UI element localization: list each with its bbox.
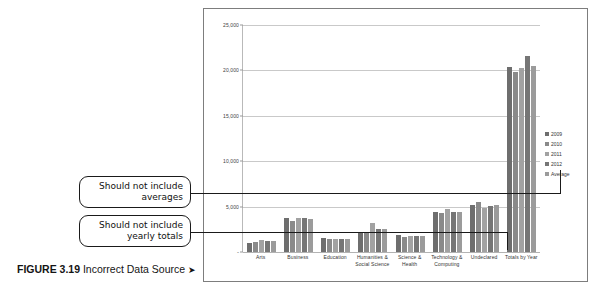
x-axis-label-line: Arts <box>242 254 279 261</box>
legend-label: 2011 <box>551 151 562 157</box>
figure-caption: FIGURE 3.19 Incorrect Data Source ➤ <box>17 262 197 277</box>
callout-averages: Should not include averages <box>79 176 191 208</box>
callout-totals-line2: yearly totals <box>86 231 183 242</box>
y-axis-tick-label: 10,000 <box>223 158 239 164</box>
bar <box>408 236 413 252</box>
x-axis-labels: ArtsBusinessEducationHumanities &Social … <box>242 254 540 268</box>
bar <box>531 66 536 252</box>
x-axis-label-line: Business <box>279 254 316 261</box>
bar-group <box>429 25 466 252</box>
bar <box>265 241 270 252</box>
x-axis-label-line: Social Science <box>354 261 391 268</box>
bar <box>253 242 258 252</box>
y-axis-tick-label: 20,000 <box>223 67 239 73</box>
x-axis-label: Education <box>317 254 354 268</box>
y-axis-tick-label: 15,000 <box>223 113 239 119</box>
chart-frame: 25,00020,00015,00010,0005,000- ArtsBusin… <box>203 8 588 282</box>
callout-yearly-totals: Should not include yearly totals <box>79 215 191 247</box>
bar <box>271 241 276 252</box>
legend-item: Average <box>545 169 587 179</box>
legend-item: 2010 <box>545 139 587 149</box>
legend-swatch-icon <box>545 142 549 146</box>
bar <box>290 221 295 252</box>
x-axis-label-line: Humanities & <box>354 254 391 261</box>
bar-group <box>466 25 503 252</box>
x-axis-label-line: Technology & <box>428 254 465 261</box>
callout-averages-line2: averages <box>86 192 183 203</box>
x-axis-label-line: Health <box>391 261 428 268</box>
legend-swatch-icon <box>545 152 549 156</box>
bar <box>370 223 375 252</box>
arrow-icon: ➤ <box>188 265 196 275</box>
bar <box>507 67 512 252</box>
figure-title: Incorrect Data Source <box>80 263 188 275</box>
leader-line-totals-horizontal <box>191 232 507 233</box>
bar <box>476 202 481 252</box>
bar <box>470 205 475 252</box>
bar <box>396 235 401 252</box>
x-axis-label: Totals by Year <box>503 254 540 268</box>
legend-swatch-icon <box>545 162 549 166</box>
bar <box>345 239 350 252</box>
x-axis-label-line: Science & <box>391 254 428 261</box>
y-axis-tick-label: 25,000 <box>223 22 239 28</box>
legend-swatch-icon <box>545 172 549 176</box>
legend-item: 2011 <box>545 149 587 159</box>
chart-legend: 2009201020112012Average <box>545 129 587 179</box>
callout-averages-line1: Should not include <box>86 181 183 192</box>
x-axis-label: Undeclared <box>466 254 503 268</box>
x-axis-label-line: Education <box>317 254 354 261</box>
bar <box>488 206 493 252</box>
bar <box>445 209 450 252</box>
bar <box>302 218 307 252</box>
bar <box>339 239 344 252</box>
plot-area: 25,00020,00015,00010,0005,000- <box>242 25 540 252</box>
legend-item: 2009 <box>545 129 587 139</box>
legend-label: 2009 <box>551 131 562 137</box>
leader-line-totals-vertical <box>507 232 508 250</box>
leader-line-averages-vertical <box>560 170 561 194</box>
bar-group <box>503 25 540 252</box>
bar <box>296 218 301 253</box>
figure-number: FIGURE 3.19 <box>17 263 80 275</box>
bar-group <box>280 25 317 252</box>
bar-group <box>243 25 280 252</box>
bar <box>364 232 369 252</box>
bar <box>519 68 524 252</box>
bar-group <box>392 25 429 252</box>
bar <box>284 218 289 252</box>
x-axis-label: Arts <box>242 254 279 268</box>
bar <box>321 238 326 252</box>
bar <box>402 237 407 252</box>
bar-group <box>317 25 354 252</box>
bar <box>414 236 419 252</box>
x-axis-label: Technology &Computing <box>428 254 465 268</box>
bar <box>494 205 499 252</box>
legend-label: 2010 <box>551 141 562 147</box>
bar <box>525 56 530 252</box>
bar <box>513 72 518 252</box>
legend-item: 2012 <box>545 159 587 169</box>
bar-groups <box>243 25 540 252</box>
bar-group <box>354 25 391 252</box>
bar <box>247 243 252 252</box>
bar <box>308 219 313 252</box>
gridline <box>243 252 540 253</box>
legend-label: 2012 <box>551 161 562 167</box>
x-axis-label-line: Undeclared <box>466 254 503 261</box>
bar <box>259 240 264 252</box>
bar <box>482 208 487 252</box>
x-axis-label-line: Totals by Year <box>503 254 540 261</box>
bar <box>420 236 425 252</box>
bar <box>358 232 363 252</box>
legend-swatch-icon <box>545 132 549 136</box>
x-axis-label: Science &Health <box>391 254 428 268</box>
bar <box>327 239 332 252</box>
y-axis-tick-label: - <box>237 249 239 255</box>
x-axis-label-line: Computing <box>428 261 465 268</box>
callout-totals-line1: Should not include <box>86 220 183 231</box>
x-axis-label: Business <box>279 254 316 268</box>
leader-line-averages-horizontal <box>191 193 560 194</box>
y-axis-tick-label: 5,000 <box>226 204 239 210</box>
x-axis-label: Humanities &Social Science <box>354 254 391 268</box>
